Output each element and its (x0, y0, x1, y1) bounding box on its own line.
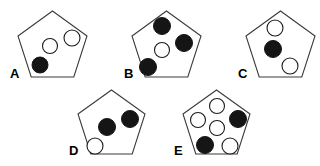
open-circle-upper-right (64, 30, 80, 46)
filled-circle-lower-left (140, 59, 157, 76)
filled-circle-top (154, 18, 171, 35)
open-circle-center (43, 39, 58, 54)
filled-circle-center (265, 41, 282, 58)
pentagon-item-e[interactable]: E (174, 90, 250, 158)
filled-circle-center (99, 119, 116, 136)
pentagon-item-b[interactable]: B (124, 11, 201, 81)
filled-circle-upper-right (122, 111, 139, 128)
pentagon-item-d[interactable]: D (69, 90, 145, 158)
filled-circle-upper-right (176, 35, 193, 52)
filled-circle-right (230, 111, 247, 128)
option-label-c: C (238, 66, 248, 81)
filled-circle-lower-left (32, 57, 48, 73)
open-circle-top (210, 99, 225, 114)
figure-canvas: ABCDE (0, 0, 320, 166)
option-label-e: E (174, 143, 183, 158)
open-circle-center (155, 43, 170, 58)
open-circle-lower-right (282, 58, 298, 74)
filled-circle-lower-left (197, 137, 214, 154)
option-label-d: D (69, 143, 78, 158)
open-circle-lower-left (87, 138, 103, 154)
open-circle-left (191, 113, 206, 128)
open-circle-top (267, 20, 283, 36)
option-label-a: A (10, 66, 20, 81)
option-label-b: B (124, 66, 133, 81)
pentagon-figure: ABCDE (0, 0, 320, 166)
pentagon-item-c[interactable]: C (238, 11, 315, 81)
pentagon-shape (246, 11, 315, 77)
open-circle-center (210, 121, 225, 136)
open-circle-lower-right (222, 138, 238, 154)
pentagon-item-a[interactable]: A (10, 11, 87, 81)
